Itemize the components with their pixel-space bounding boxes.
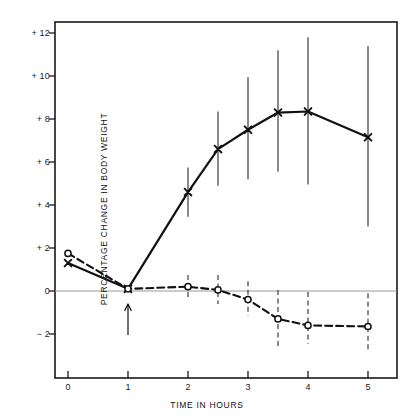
marker-circle-control [245, 297, 251, 303]
y-tick-label: + 2 [22, 243, 50, 253]
dose-arrow-annotation [125, 304, 131, 335]
marker-circle-control [305, 322, 311, 328]
y-tick-label: + 12 [22, 28, 50, 38]
y-tick-label: 0 [22, 286, 50, 296]
x-axis-title: TIME IN HOURS [0, 400, 414, 410]
y-tick-label: − 2 [22, 329, 50, 339]
marker-circle-control [185, 284, 191, 290]
chart-plot-area [0, 0, 414, 417]
chart-container: PERCENTAGE CHANGE IN BODY WEIGHT TIME IN… [0, 0, 414, 417]
x-tick-label: 3 [245, 382, 250, 392]
x-tick-label: 1 [125, 382, 130, 392]
marker-circle-control [365, 323, 371, 329]
marker-circle-control [275, 316, 281, 322]
series-treated [65, 37, 372, 292]
y-axis-title: PERCENTAGE CHANGE IN BODY WEIGHT [99, 112, 109, 305]
x-tick-label: 5 [365, 382, 370, 392]
x-tick-label: 0 [65, 382, 70, 392]
y-tick-label: + 6 [22, 157, 50, 167]
y-tick-label: + 10 [22, 71, 50, 81]
y-tick-label: + 8 [22, 114, 50, 124]
marker-circle-control [215, 287, 221, 293]
y-tick-label: + 4 [22, 200, 50, 210]
series-control [65, 250, 371, 352]
x-tick-label: 2 [185, 382, 190, 392]
x-tick-label: 4 [305, 382, 310, 392]
marker-circle-control [65, 250, 71, 256]
marker-circle-control [125, 286, 131, 292]
